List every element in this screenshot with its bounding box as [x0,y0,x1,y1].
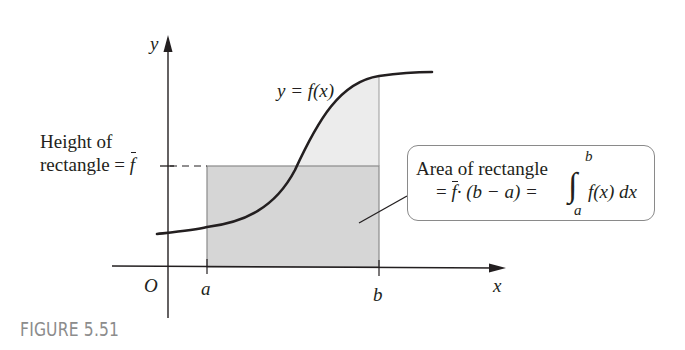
figure-caption: FIGURE 5.51 [20,318,119,340]
integral-lower-limit: a [574,203,582,218]
y-axis-arrow-icon [164,35,173,52]
y-axis-label: y [150,34,158,53]
integral-upper-limit: b [585,149,593,164]
integrand: f(x) dx [588,182,637,201]
curve-label: y = f(x) [277,81,334,100]
x-axis-arrow-icon [489,264,506,273]
callout-line1: Area of rectangle [416,159,548,178]
x-axis-label: x [493,276,501,295]
height-label-line2: rectangle = f [40,153,135,176]
average-value-rectangle [207,166,379,267]
fbar-symbol: f [130,153,135,176]
callout-equation: = f· (b − a) = [436,182,538,201]
height-label-line1: Height of [40,130,135,153]
tick-label-a: a [201,279,211,298]
area-callout-box: Area of rectangle = f· (b − a) = ∫ b a f… [407,145,655,221]
integral-sign-icon: ∫ [568,168,577,202]
tick-label-b: b [373,285,383,304]
origin-label: O [144,276,158,295]
height-label: Height of rectangle = f [40,130,135,176]
